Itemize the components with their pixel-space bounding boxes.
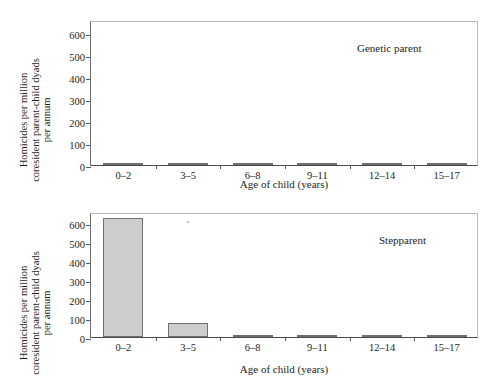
y-axis-tick-label: 200 [69, 296, 85, 307]
x-axis-tick-label: 15–17 [434, 170, 460, 181]
bar [427, 335, 467, 337]
x-axis-tick [414, 165, 415, 169]
x-axis-tick [414, 337, 415, 341]
y-axis-tick-label: 600 [69, 30, 85, 41]
y-axis-tick [86, 301, 91, 302]
y-axis-tick [86, 339, 91, 340]
x-axis-tick [285, 337, 286, 341]
y-axis-title-line-2: coresident parent-child dyads [30, 44, 42, 196]
bar [233, 163, 273, 165]
bar [362, 163, 402, 165]
x-axis-tick-label: 0–2 [115, 342, 131, 353]
bar [233, 335, 273, 337]
chart-panel-stepparent: Homicides per million coresident parent-… [0, 193, 494, 389]
x-axis-tick-label: 0–2 [115, 170, 131, 181]
y-axis-tick [86, 79, 91, 80]
y-axis-tick [86, 123, 91, 124]
y-axis-tick [86, 320, 91, 321]
y-axis-title-line-1: Homicides per million [18, 237, 30, 389]
x-axis-title-stepparent: Age of child (years) [240, 363, 328, 375]
y-axis-tick-label: 0 [80, 334, 85, 345]
y-axis-tick [86, 263, 91, 264]
print-speck [187, 221, 189, 223]
y-axis-tick-label: 300 [69, 277, 85, 288]
x-axis-tick-label: 6–8 [245, 342, 261, 353]
y-axis-tick-label: 300 [69, 96, 85, 107]
y-axis-tick [86, 225, 91, 226]
y-axis-title-line-1: Homicides per million [18, 44, 30, 196]
y-axis-tick [86, 244, 91, 245]
y-axis-title-line-3: per annum [41, 44, 53, 196]
x-axis-tick-label: 12–14 [369, 170, 395, 181]
y-axis-tick [86, 35, 91, 36]
y-axis-tick-label: 100 [69, 315, 85, 326]
x-axis-tick [220, 337, 221, 341]
series-label-genetic-parent: Genetic parent [357, 42, 421, 54]
y-axis-tick-label: 0 [80, 162, 85, 173]
y-axis-title: Homicides per million coresident parent-… [18, 44, 38, 196]
y-axis-tick-label: 200 [69, 118, 85, 129]
x-axis-tick-label: 9–11 [307, 342, 328, 353]
bar [297, 163, 337, 165]
x-axis-tick [220, 165, 221, 169]
plot-area-stepparent: 01002003004005006000–23–56–89–1112–1415–… [90, 213, 478, 338]
x-axis-title-genetic: Age of child (years) [240, 178, 328, 190]
x-axis-tick [350, 165, 351, 169]
x-axis-tick [156, 337, 157, 341]
y-axis-tick-label: 600 [69, 220, 85, 231]
series-label-stepparent: Stepparent [379, 234, 426, 246]
y-axis-tick-label: 100 [69, 140, 85, 151]
y-axis-tick-label: 400 [69, 258, 85, 269]
x-axis-tick [350, 337, 351, 341]
y-axis-title-line-2: coresident parent-child dyads [30, 237, 42, 389]
y-axis-tick [86, 282, 91, 283]
y-axis-tick-label: 500 [69, 239, 85, 250]
x-axis-tick [156, 165, 157, 169]
bar [103, 218, 143, 337]
bar [297, 335, 337, 337]
y-axis-tick [86, 101, 91, 102]
y-axis-tick [86, 145, 91, 146]
bar [168, 323, 208, 337]
x-axis-tick [285, 165, 286, 169]
x-axis-tick-label: 15–17 [434, 342, 460, 353]
y-axis-title-line-3: per annum [41, 237, 53, 389]
y-axis-tick-label: 500 [69, 52, 85, 63]
x-axis-tick-label: 3–5 [180, 342, 196, 353]
y-axis-tick [86, 167, 91, 168]
chart-panel-genetic-parent: Homicides per million coresident parent-… [0, 0, 494, 196]
bar [362, 335, 402, 337]
y-axis-title: Homicides per million coresident parent-… [18, 237, 38, 389]
y-axis-tick [86, 57, 91, 58]
bar [427, 163, 467, 165]
x-axis-tick-label: 12–14 [369, 342, 395, 353]
x-axis-tick-label: 3–5 [180, 170, 196, 181]
bar [103, 163, 143, 165]
bar [168, 163, 208, 165]
y-axis-tick-label: 400 [69, 74, 85, 85]
